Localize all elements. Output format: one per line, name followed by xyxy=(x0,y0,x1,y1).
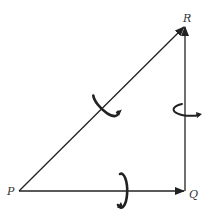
rotation-curl-qr-icon xyxy=(174,104,202,118)
point-label-q: Q xyxy=(189,188,198,201)
vector-triangle-diagram: P Q R xyxy=(0,0,216,218)
point-label-r: R xyxy=(182,12,191,25)
point-label-p: P xyxy=(6,185,15,198)
